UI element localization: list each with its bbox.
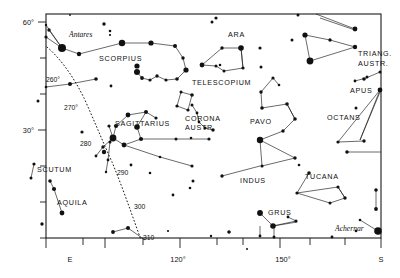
star: [353, 27, 358, 32]
star: [45, 86, 48, 89]
star: [45, 24, 47, 26]
star: [191, 104, 194, 107]
star: [220, 174, 223, 177]
star: [110, 135, 117, 142]
star: [246, 248, 248, 250]
star: [379, 71, 382, 74]
star: [105, 171, 107, 173]
constellation-label-aquila: AQUILA: [57, 198, 88, 207]
star: [183, 67, 188, 72]
star: [210, 235, 212, 237]
constellation-label-sagittarius: SAGITTARIUS: [115, 119, 170, 128]
star: [378, 88, 383, 93]
star: [175, 138, 178, 141]
star: [122, 143, 127, 148]
star: [353, 45, 357, 49]
star: [48, 179, 52, 183]
constellation-label-octans: OCTANS: [327, 113, 361, 122]
star: [270, 223, 276, 229]
star: [190, 93, 194, 97]
star: [109, 141, 112, 144]
star: [148, 40, 153, 45]
star: [293, 156, 296, 159]
star: [291, 39, 294, 42]
y-axis-ticks: [38, 22, 46, 238]
star: [200, 63, 205, 68]
constellation-label-triangulum: TRIANG.: [358, 49, 392, 58]
star: [328, 38, 331, 41]
star: [32, 162, 35, 165]
star: [102, 150, 106, 154]
star: [297, 14, 300, 17]
star: [238, 45, 244, 51]
star: [173, 44, 177, 48]
star: [94, 77, 98, 81]
constellation-label-grus: GRUS: [268, 208, 292, 217]
star: [155, 74, 158, 77]
star: [223, 70, 226, 73]
star: [192, 180, 195, 183]
star: [186, 108, 189, 111]
star: [80, 130, 83, 133]
constellation-label-ara: ARA: [228, 30, 245, 39]
star: [37, 100, 40, 103]
star: [77, 52, 81, 56]
galactic-label-290: 290: [117, 169, 129, 176]
star: [68, 82, 72, 86]
star: [148, 78, 151, 81]
star: [107, 124, 110, 127]
constellation-label-tucana: TUCANA: [305, 172, 339, 181]
constellation-label-telescopium: TELESCOPIUM: [192, 78, 251, 87]
star: [140, 76, 144, 80]
star: [60, 211, 65, 216]
star: [307, 58, 314, 65]
star-chart: 60° 30° E 120° 150° S 260° 270° 280 290 …: [0, 0, 400, 278]
star: [190, 137, 193, 140]
galactic-label-280: 280: [80, 140, 92, 147]
star: [281, 129, 284, 132]
star: [159, 156, 162, 159]
star: [126, 226, 130, 230]
galactic-label-270: 270°: [64, 104, 78, 111]
sky-map-svg: 60° 30° E 120° 150° S 260° 270° 280 290 …: [0, 0, 400, 278]
star: [134, 69, 140, 75]
constellation-label-scorpius: SCORPIUS: [99, 54, 142, 63]
star: [214, 16, 217, 19]
star: [295, 191, 298, 194]
star: [144, 110, 148, 114]
star: [219, 64, 222, 67]
star: [257, 210, 263, 216]
y-axis-label-30: 30°: [23, 126, 34, 135]
star-label-achernar: Achernar: [334, 224, 364, 233]
star: [190, 164, 193, 167]
star: [167, 230, 169, 232]
constellation-label-corona: CORONA: [185, 114, 221, 123]
star: [257, 137, 263, 143]
star: [359, 219, 362, 222]
star: [109, 30, 112, 33]
star: [180, 91, 183, 94]
x-axis-ticks: [46, 238, 381, 248]
star: [362, 77, 366, 81]
x-axis-label-120: 120°: [170, 255, 185, 264]
star: [52, 187, 56, 191]
star: [164, 78, 167, 81]
star: [366, 76, 369, 79]
constellation-label-triangulum-austr: AUSTR.: [358, 59, 389, 68]
star: [271, 76, 274, 79]
constellation-label-apus: APUS: [350, 86, 372, 95]
star: [175, 104, 178, 107]
star: [172, 194, 175, 197]
star: [134, 63, 139, 68]
star: [110, 85, 113, 88]
star: [278, 84, 281, 87]
star-label-antares: Antares: [68, 30, 92, 39]
star: [211, 21, 214, 24]
star: [189, 187, 192, 190]
star: [362, 139, 365, 142]
star: [126, 113, 131, 118]
star: [331, 236, 334, 239]
star: [259, 90, 262, 93]
star: [374, 207, 378, 211]
star: [220, 46, 223, 49]
